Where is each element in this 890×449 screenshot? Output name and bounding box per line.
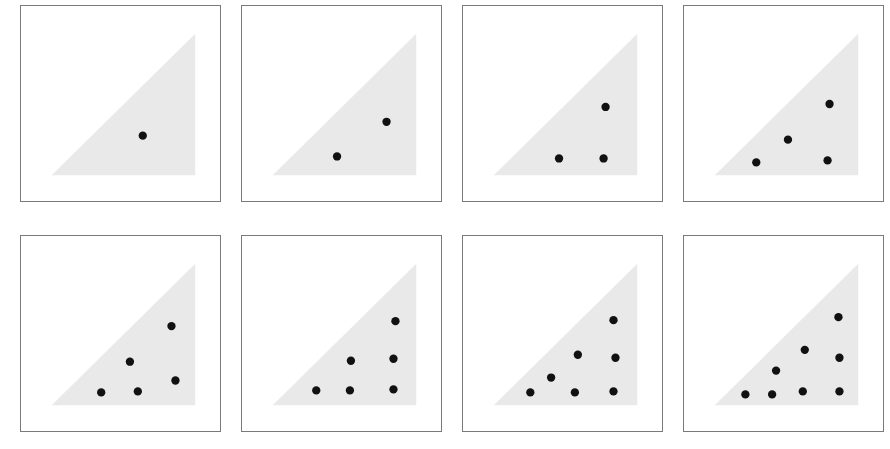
panel-1 <box>20 5 221 202</box>
panel-canvas <box>242 6 441 201</box>
lattice-dot <box>835 387 843 395</box>
panel-2 <box>241 5 442 202</box>
panel-4 <box>683 5 884 202</box>
lattice-dot <box>768 390 776 398</box>
panel-canvas <box>21 236 220 431</box>
panel-canvas <box>242 236 441 431</box>
lattice-dot <box>167 322 175 330</box>
lattice-dot <box>391 317 399 325</box>
triangle-shape <box>494 264 638 406</box>
lattice-dot <box>555 154 563 162</box>
triangle-shape <box>494 34 638 176</box>
lattice-dot <box>382 118 390 126</box>
lattice-dot <box>312 386 320 394</box>
lattice-dot <box>526 388 534 396</box>
lattice-dot <box>599 154 607 162</box>
panel-8 <box>683 235 884 432</box>
triangle-shape <box>715 34 859 176</box>
lattice-dot <box>609 387 617 395</box>
lattice-dot <box>772 366 780 374</box>
lattice-dot <box>547 373 555 381</box>
triangle-shape <box>273 264 417 406</box>
panel-canvas <box>684 6 883 201</box>
lattice-dot <box>389 385 397 393</box>
lattice-dot <box>823 156 831 164</box>
lattice-dot <box>347 357 355 365</box>
lattice-dot <box>799 387 807 395</box>
lattice-dot <box>574 351 582 359</box>
panel-canvas <box>684 236 883 431</box>
triangle-shape <box>52 34 196 176</box>
panel-7 <box>462 235 663 432</box>
lattice-dot <box>741 390 749 398</box>
lattice-dot <box>752 158 760 166</box>
panel-canvas <box>463 6 662 201</box>
lattice-dot <box>825 100 833 108</box>
panel-5 <box>20 235 221 432</box>
panel-3 <box>462 5 663 202</box>
lattice-dot <box>609 316 617 324</box>
panel-canvas <box>463 236 662 431</box>
lattice-dot <box>171 376 179 384</box>
lattice-dot <box>126 358 134 366</box>
lattice-dot <box>333 152 341 160</box>
panel-grid <box>0 0 890 449</box>
panel-6 <box>241 235 442 432</box>
lattice-dot <box>389 355 397 363</box>
lattice-dot <box>611 354 619 362</box>
lattice-dot <box>134 387 142 395</box>
lattice-dot <box>834 313 842 321</box>
lattice-dot <box>784 135 792 143</box>
panel-canvas <box>21 6 220 201</box>
lattice-dot <box>601 103 609 111</box>
lattice-dot <box>97 388 105 396</box>
triangle-shape <box>273 34 417 176</box>
lattice-dot <box>139 132 147 140</box>
lattice-dot <box>346 386 354 394</box>
triangle-shape <box>715 264 859 406</box>
lattice-dot <box>801 346 809 354</box>
lattice-dot <box>571 388 579 396</box>
lattice-dot <box>835 354 843 362</box>
